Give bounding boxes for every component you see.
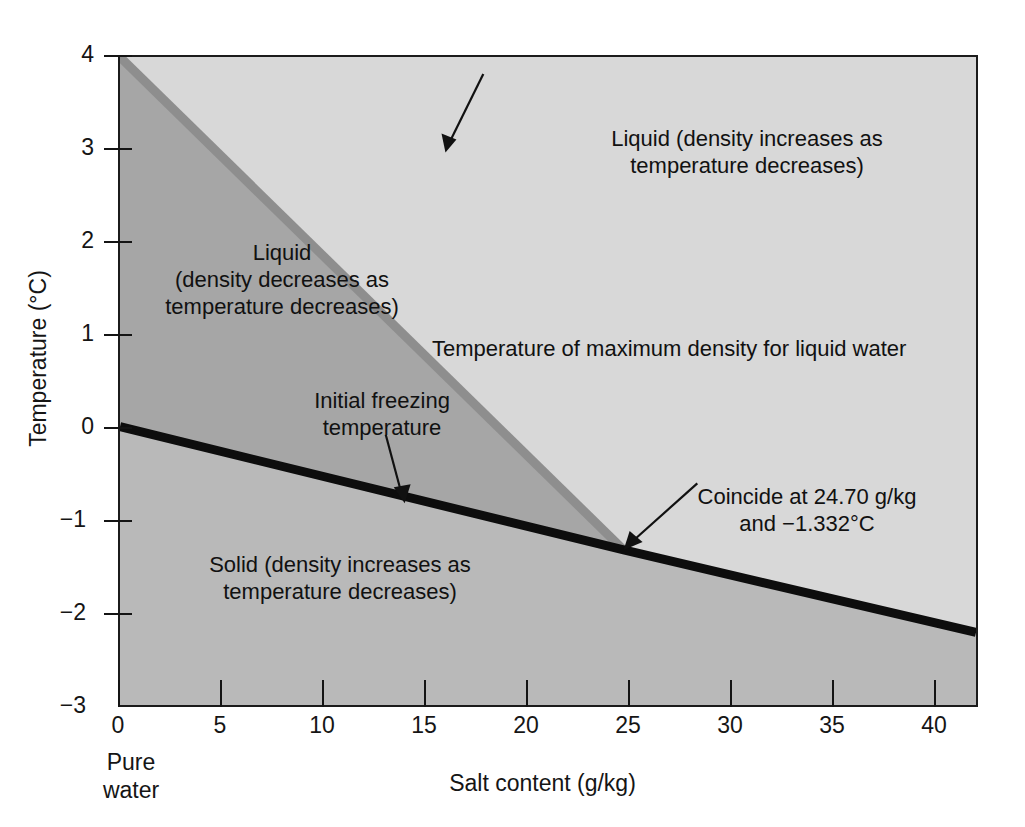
y-tick-3	[104, 148, 132, 150]
x-tick-label-40: 40	[894, 714, 974, 737]
y-tick-label-3: 3	[48, 136, 94, 159]
annotation-coincide-point: Coincide at 24.70 g/kg and −1.332°C	[662, 483, 952, 537]
x-tick-35	[832, 680, 834, 707]
annotation-liquid-increases: Liquid (density increases as temperature…	[582, 125, 912, 179]
y-tick-1	[104, 334, 132, 336]
y-tick-label-2: 2	[48, 229, 94, 252]
annotation-solid: Solid (density increases as temperature …	[145, 551, 535, 605]
x-tick-10	[322, 680, 324, 707]
chart-figure: Liquid (density increases as temperature…	[0, 0, 1025, 827]
y-axis-title: Temperature (°C)	[25, 59, 52, 659]
y-tick-label-4: 4	[48, 43, 94, 66]
x-tick-25	[628, 680, 630, 707]
x-tick-label-10: 10	[282, 714, 362, 737]
annotation-liquid-decreases: Liquid (density decreases as temperature…	[132, 239, 432, 320]
x-tick-label-20: 20	[486, 714, 566, 737]
x-tick-0	[118, 680, 120, 707]
x-tick-label-0: 0	[78, 714, 158, 737]
x-tick-label-35: 35	[792, 714, 872, 737]
y-tick-m2	[104, 613, 132, 615]
x-tick-label-25: 25	[588, 714, 668, 737]
y-tick-4	[104, 55, 132, 57]
x-tick-label-5: 5	[180, 714, 260, 737]
plot-area: Liquid (density increases as temperature…	[118, 55, 978, 707]
y-tick-label-0: 0	[48, 415, 94, 438]
y-tick-2	[104, 241, 132, 243]
x-tick-15	[424, 680, 426, 707]
y-tick-0	[104, 427, 132, 429]
x-tick-40	[934, 680, 936, 707]
x-tick-20	[526, 680, 528, 707]
x-tick-label-15: 15	[384, 714, 464, 737]
x-axis-title: Salt content (g/kg)	[0, 770, 1025, 797]
annotation-tmd-line: Temperature of maximum density for liqui…	[432, 335, 972, 362]
annotation-initial-freezing: Initial freezing temperature	[257, 387, 507, 441]
x-tick-label-30: 30	[690, 714, 770, 737]
x-tick-30	[730, 680, 732, 707]
x-tick-5	[220, 680, 222, 707]
y-tick-label-1: 1	[48, 322, 94, 345]
y-tick-m1	[104, 520, 132, 522]
